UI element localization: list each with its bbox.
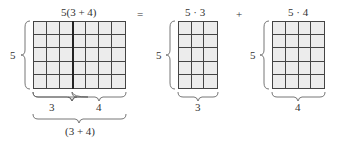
grid-cell (299, 35, 312, 48)
right-grid (272, 21, 325, 89)
left-brace (21, 21, 30, 89)
grid-cell (47, 22, 60, 35)
grid-cell (273, 35, 286, 48)
middle-side-brace (166, 21, 175, 89)
grid-cell (192, 22, 205, 35)
left-bottom-label-4: 4 (96, 101, 102, 113)
grid-cell (311, 48, 324, 61)
grid-cell (73, 75, 86, 88)
left-grid-split-line (72, 21, 74, 89)
grid-cell (99, 75, 112, 88)
grid-cell (204, 75, 217, 88)
grid-cell (34, 22, 47, 35)
brace-total (33, 114, 126, 123)
grid-cell (47, 75, 60, 88)
right-top-label: 5 · 4 (288, 6, 308, 18)
grid-cell (273, 22, 286, 35)
grid-cell (299, 62, 312, 75)
grid-cell (286, 62, 299, 75)
right-bottom-label: 4 (295, 101, 301, 113)
middle-side-label: 5 (156, 49, 162, 61)
grid-cell (47, 62, 60, 75)
grid-cell (204, 22, 217, 35)
grid-cell (34, 48, 47, 61)
grid-cell (311, 22, 324, 35)
grid-cell (179, 22, 192, 35)
grid-cell (73, 48, 86, 61)
grid-cell (286, 48, 299, 61)
grid-cell (86, 62, 99, 75)
middle-grid (178, 21, 218, 89)
right-side-brace (260, 21, 269, 89)
grid-cell (299, 75, 312, 88)
left-total-label: (3 + 4) (65, 125, 95, 137)
grid-cell (273, 75, 286, 88)
grid-cell (112, 75, 125, 88)
grid-cell (47, 35, 60, 48)
grid-cell (311, 35, 324, 48)
grid-cell (204, 35, 217, 48)
left-grid (33, 21, 126, 89)
grid-cell (192, 75, 205, 88)
grid-cell (34, 35, 47, 48)
left-side-label: 5 (10, 49, 16, 61)
grid-cell (273, 62, 286, 75)
grid-cell (112, 35, 125, 48)
middle-top-label: 5 · 3 (185, 6, 205, 18)
grid-cell (286, 75, 299, 88)
grid-cell (73, 22, 86, 35)
grid-cell (273, 48, 286, 61)
grid-cell (112, 22, 125, 35)
grid-cell (204, 62, 217, 75)
grid-cell (286, 22, 299, 35)
grid-cell (73, 62, 86, 75)
grid-cell (192, 62, 205, 75)
grid-cell (299, 22, 312, 35)
left-bottom-label-3: 3 (49, 101, 55, 113)
grid-cell (179, 62, 192, 75)
grid-cell (299, 48, 312, 61)
brace-3 (33, 92, 88, 101)
grid-cell (179, 35, 192, 48)
grid-cell (112, 48, 125, 61)
grid-cell (86, 35, 99, 48)
right-side-label: 5 (250, 49, 256, 61)
grid-cell (179, 75, 192, 88)
middle-bottom-label: 3 (195, 101, 201, 113)
grid-cell (86, 48, 99, 61)
grid-cell (86, 75, 99, 88)
grid-cell (204, 48, 217, 61)
grid-cell (192, 48, 205, 61)
grid-cell (112, 62, 125, 75)
grid-cell (99, 48, 112, 61)
grid-cell (47, 48, 60, 61)
grid-cell (99, 35, 112, 48)
grid-cell (86, 22, 99, 35)
middle-bottom-brace (178, 92, 218, 101)
grid-cell (192, 35, 205, 48)
grid-cell (311, 62, 324, 75)
grid-cell (34, 75, 47, 88)
right-bottom-brace (272, 92, 325, 101)
grid-cell (311, 75, 324, 88)
equals-sign: = (137, 8, 143, 20)
grid-cell (99, 62, 112, 75)
grid-cell (286, 35, 299, 48)
grid-cell (99, 22, 112, 35)
grid-cell (179, 48, 192, 61)
plus-sign: + (236, 8, 242, 20)
grid-cell (73, 35, 86, 48)
grid-cell (34, 62, 47, 75)
left-top-label: 5(3 + 4) (61, 6, 97, 18)
